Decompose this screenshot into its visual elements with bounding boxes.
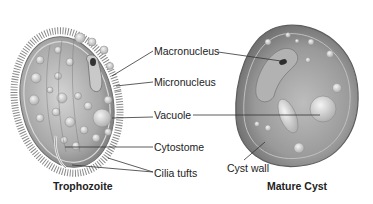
label-macronucleus: Macronucleus [154,46,219,57]
label-cilia-tufts: Cilia tufts [154,168,197,179]
label-vacuole: Vacuole [154,110,191,121]
label-micronucleus: Micronucleus [154,77,216,88]
diagram-stage: Macronucleus Micronucleus Vacuole Cytost… [0,0,373,204]
caption-mature-cyst: Mature Cyst [267,181,327,192]
trophozoite-illustration [1,21,133,183]
label-cytostome: Cytostome [154,142,204,153]
cyst-illustration [236,25,358,166]
micronucleus-shape [90,58,96,66]
label-cyst-wall: Cyst wall [227,163,269,174]
caption-trophozoite: Trophozoite [53,181,113,192]
cyst-vacuole-shape [310,96,336,122]
